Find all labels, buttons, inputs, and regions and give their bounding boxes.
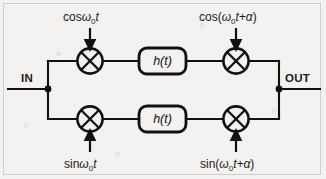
filter-bottom-label: h(t) [139,112,186,126]
carrier-bottom-left-sin: sin [64,157,79,171]
carrier-bottom-left-omega: ω [79,157,88,171]
carrier-top-right-omega: ω [222,10,231,24]
carrier-label-top-left: cosω0t [63,11,99,26]
carrier-bottom-left-t: t [93,157,96,171]
carrier-bottom-right-omega: ω [219,157,228,171]
mixer-top-left[interactable] [77,48,102,73]
mixer-top-right[interactable] [223,48,248,73]
mixer-bottom-left[interactable] [77,106,102,131]
wiring-layer [0,0,326,179]
carrier-label-top-right: cos(ω0t+α) [199,11,257,26]
carrier-top-left-t: t [96,10,99,24]
input-port-label: IN [21,73,33,85]
junction-dot-input [45,86,52,93]
carrier-label-bottom-left: sinω0t [64,158,97,173]
carrier-top-right-mid: t+ [235,10,245,24]
carrier-top-left-omega: ω [82,10,91,24]
carrier-top-left-cos: cos [63,10,82,24]
block-diagram-canvas: h(t) h(t) IN OUT cosω0t cos(ω0t+α) sinω0… [0,0,326,179]
carrier-top-right-suffix: ) [253,10,257,24]
mixer-bottom-right[interactable] [223,106,248,131]
carrier-bottom-right-mid: t+ [233,157,243,171]
output-port-label: OUT [285,73,310,85]
carrier-label-bottom-right: sin(ω0t+α) [200,158,254,173]
filter-top-label: h(t) [139,54,186,68]
carrier-top-right-alpha: α [246,10,253,24]
carrier-top-right-prefix: cos( [199,10,222,24]
carrier-bottom-right-suffix: ) [250,157,254,171]
carrier-bottom-right-prefix: sin( [200,157,219,171]
junction-dot-output [276,86,283,93]
